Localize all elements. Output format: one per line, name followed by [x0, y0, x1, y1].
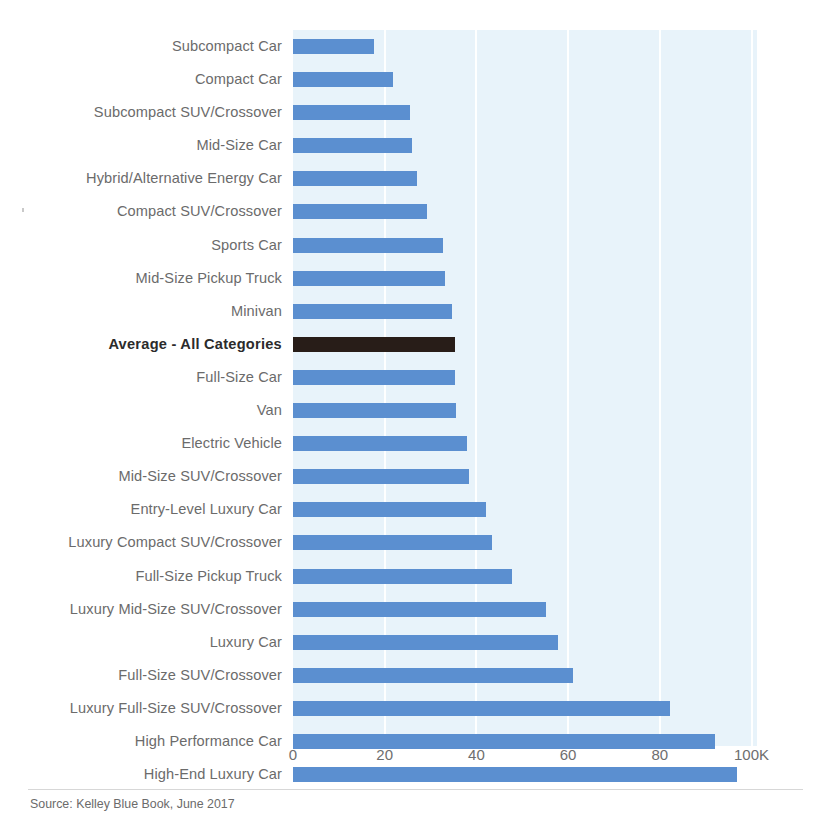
category-label: Luxury Car — [210, 626, 282, 659]
bar-row[interactable]: Mid-Size Pickup Truck — [0, 262, 831, 295]
category-label: Full-Size Car — [196, 361, 282, 394]
category-label: Compact Car — [195, 63, 282, 96]
category-label: Minivan — [231, 295, 282, 328]
bar-row[interactable]: Average - All Categories — [0, 328, 831, 361]
category-label: Electric Vehicle — [181, 427, 282, 460]
bar[interactable] — [293, 635, 558, 650]
bar[interactable] — [293, 469, 469, 484]
bar-row[interactable]: Hybrid/Alternative Energy Car — [0, 162, 831, 195]
bar[interactable] — [293, 436, 467, 451]
category-label: Mid-Size SUV/Crossover — [118, 460, 282, 493]
bar[interactable] — [293, 72, 393, 87]
bar-row[interactable]: Electric Vehicle — [0, 427, 831, 460]
bar-rows: Subcompact CarCompact CarSubcompact SUV/… — [0, 30, 831, 791]
bar-row[interactable]: Minivan — [0, 295, 831, 328]
bar[interactable] — [293, 204, 427, 219]
bar-row[interactable]: Full-Size Pickup Truck — [0, 560, 831, 593]
category-label: Entry-Level Luxury Car — [131, 493, 282, 526]
bar-row[interactable]: Luxury Full-Size SUV/Crossover — [0, 692, 831, 725]
category-label: Subcompact Car — [172, 30, 282, 63]
x-axis-tick-label: 40 — [468, 746, 485, 763]
source-note: Source: Kelley Blue Book, June 2017 — [30, 797, 235, 811]
bar-row[interactable]: Luxury Car — [0, 626, 831, 659]
category-label: Luxury Mid-Size SUV/Crossover — [70, 593, 282, 626]
bar[interactable] — [293, 602, 546, 617]
bar[interactable] — [293, 370, 455, 385]
category-label: Compact SUV/Crossover — [117, 195, 282, 228]
category-label: Average - All Categories — [108, 328, 282, 361]
bar[interactable] — [293, 403, 456, 418]
x-axis: 020406080100K — [0, 746, 831, 772]
bar[interactable] — [293, 304, 452, 319]
bar[interactable] — [293, 701, 670, 716]
category-label: Full-Size SUV/Crossover — [118, 659, 282, 692]
bar-row[interactable]: Luxury Mid-Size SUV/Crossover — [0, 593, 831, 626]
bar-row[interactable]: Van — [0, 394, 831, 427]
bar[interactable] — [293, 171, 417, 186]
category-label: Luxury Compact SUV/Crossover — [68, 526, 282, 559]
bar[interactable] — [293, 39, 374, 54]
bar-row[interactable]: Entry-Level Luxury Car — [0, 493, 831, 526]
category-label: Mid-Size Pickup Truck — [136, 262, 282, 295]
bar-row[interactable]: Subcompact Car — [0, 30, 831, 63]
x-axis-tick-label: 0 — [289, 746, 297, 763]
bar-row[interactable]: Mid-Size Car — [0, 129, 831, 162]
bar[interactable] — [293, 337, 455, 352]
bar[interactable] — [293, 138, 412, 153]
bar-row[interactable]: Subcompact SUV/Crossover — [0, 96, 831, 129]
category-label: Full-Size Pickup Truck — [135, 560, 282, 593]
category-label: Van — [257, 394, 282, 427]
category-label: Luxury Full-Size SUV/Crossover — [70, 692, 282, 725]
bar-row[interactable]: Sports Car — [0, 229, 831, 262]
bar-row[interactable]: Luxury Compact SUV/Crossover — [0, 526, 831, 559]
bar[interactable] — [293, 668, 573, 683]
x-axis-tick-label: 20 — [376, 746, 393, 763]
category-label: Hybrid/Alternative Energy Car — [86, 162, 282, 195]
bar-row[interactable]: Full-Size Car — [0, 361, 831, 394]
bar-row[interactable]: Compact Car — [0, 63, 831, 96]
footer-divider — [28, 789, 803, 790]
bar-row[interactable]: Compact SUV/Crossover — [0, 195, 831, 228]
category-label: Sports Car — [211, 229, 282, 262]
bar[interactable] — [293, 271, 445, 286]
bar[interactable] — [293, 569, 512, 584]
bar-row[interactable]: Mid-Size SUV/Crossover — [0, 460, 831, 493]
bar[interactable] — [293, 502, 486, 517]
x-axis-tick-label: 80 — [651, 746, 668, 763]
bar[interactable] — [293, 535, 492, 550]
bar[interactable] — [293, 105, 410, 120]
x-axis-tick-label: 60 — [560, 746, 577, 763]
bar-chart: Subcompact CarCompact CarSubcompact SUV/… — [0, 0, 831, 834]
bar[interactable] — [293, 238, 443, 253]
category-label: Mid-Size Car — [196, 129, 282, 162]
category-label: Subcompact SUV/Crossover — [94, 96, 282, 129]
bar-row[interactable]: Full-Size SUV/Crossover — [0, 659, 831, 692]
x-axis-tick-label: 100K — [734, 746, 769, 763]
